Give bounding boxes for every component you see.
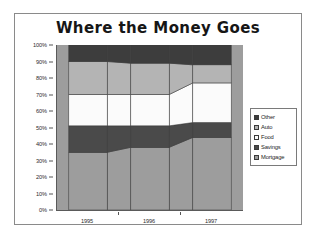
x-axis-tick-mark [118, 212, 119, 215]
legend-swatch-icon [254, 125, 259, 130]
stacked-area-series [57, 45, 243, 210]
y-axis-tick-mark [49, 94, 53, 95]
y-axis-tick-mark [49, 78, 53, 79]
x-axis: 199519961997 [56, 212, 242, 228]
legend-item-label: Auto [261, 124, 272, 130]
series-connector-band [169, 45, 193, 65]
series-connector-band [107, 147, 131, 210]
stacked-segment [131, 126, 169, 147]
stacked-segment [193, 65, 231, 83]
y-axis-tick-label: 60% [36, 108, 47, 114]
y-axis-tick-mark [49, 61, 53, 62]
y-axis: 0%10%20%30%40%50%60%70%80%90%100% [15, 45, 53, 210]
y-axis-tick-label: 10% [36, 191, 47, 197]
x-axis-tick-label: 1995 [81, 218, 93, 224]
stacked-segment [69, 45, 107, 62]
chart-frame: Where the Money Goes 0%10%20%30%40%50%60… [14, 13, 302, 225]
legend-swatch-icon [254, 155, 259, 160]
y-axis-tick-label: 20% [36, 174, 47, 180]
legend-item-food[interactable]: Food [254, 132, 294, 142]
y-axis-tick-label: 0% [39, 207, 47, 213]
legend-item-auto[interactable]: Auto [254, 122, 294, 132]
y-axis-tick-label: 50% [36, 125, 47, 131]
legend-item-label: Mortgage [261, 154, 284, 160]
x-axis-line [56, 210, 243, 211]
y-axis-tick-mark [49, 193, 53, 194]
y-axis-tick-label: 30% [36, 158, 47, 164]
series-connector-band [107, 126, 131, 152]
legend-item-other[interactable]: Other [254, 112, 294, 122]
plot-area [56, 45, 243, 210]
legend-item-label: Savings [261, 144, 281, 150]
stacked-segment [131, 147, 169, 210]
x-axis-tick-label: 1996 [143, 218, 155, 224]
y-axis-tick-mark [49, 177, 53, 178]
stacked-segment [131, 45, 169, 63]
legend-swatch-icon [254, 145, 259, 150]
y-axis-tick-mark [49, 111, 53, 112]
series-connector-band [107, 62, 131, 95]
y-axis-tick-mark [49, 210, 53, 211]
y-axis-tick-label: 100% [33, 42, 47, 48]
y-axis-tick-mark [49, 45, 53, 46]
x-axis-tick-mark [180, 212, 181, 215]
chart-title: Where the Money Goes [15, 19, 301, 37]
stacked-segment [69, 126, 107, 152]
x-axis-tick-label: 1997 [205, 218, 217, 224]
y-axis-tick-mark [49, 127, 53, 128]
stacked-segment [131, 95, 169, 126]
stacked-segment [193, 45, 231, 65]
stacked-segment [131, 63, 169, 94]
chart-legend: OtherAutoFoodSavingsMortgage [250, 108, 297, 166]
legend-item-savings[interactable]: Savings [254, 142, 294, 152]
y-axis-tick-label: 70% [36, 92, 47, 98]
stacked-segment [193, 123, 231, 138]
y-axis-tick-label: 40% [36, 141, 47, 147]
y-axis-tick-label: 80% [36, 75, 47, 81]
series-connector-band [107, 45, 131, 63]
stacked-segment [69, 62, 107, 95]
series-connector-band [169, 137, 193, 210]
stacked-segment [193, 137, 231, 210]
y-axis-tick-mark [49, 160, 53, 161]
y-axis-tick-label: 90% [36, 59, 47, 65]
legend-item-mortgage[interactable]: Mortgage [254, 152, 294, 162]
y-axis-tick-mark [49, 144, 53, 145]
series-connector-band [107, 95, 131, 126]
legend-swatch-icon [254, 115, 259, 120]
legend-item-label: Food [261, 134, 274, 140]
stacked-segment [69, 152, 107, 210]
legend-item-label: Other [261, 114, 275, 120]
stacked-segment [193, 83, 231, 123]
legend-swatch-icon [254, 135, 259, 140]
stacked-segment [69, 95, 107, 126]
